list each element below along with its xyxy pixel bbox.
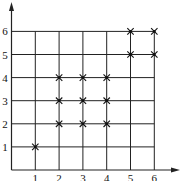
marker-center — [58, 76, 61, 79]
marker-center — [58, 122, 61, 125]
x-tick-label: 4 — [104, 172, 110, 181]
marker-center — [105, 76, 108, 79]
x-tick-label: 5 — [128, 172, 134, 181]
x-tick-label: 6 — [152, 172, 158, 181]
y-tick-label: 1 — [2, 141, 8, 153]
marker-center — [129, 30, 132, 33]
marker-center — [153, 53, 156, 56]
x-tick-labels: 123456 — [33, 172, 158, 181]
y-tick-label: 6 — [2, 25, 8, 37]
x-axis-arrow-icon — [171, 168, 180, 173]
x-tick-label: 3 — [80, 172, 86, 181]
marker-center — [82, 76, 85, 79]
x-tick-label: 2 — [56, 172, 62, 181]
y-tick-labels: 123456 — [2, 25, 8, 152]
x-tick-label: 1 — [33, 172, 39, 181]
y-axis-arrow-icon — [9, 2, 14, 11]
marker-center — [34, 146, 37, 149]
marker-center — [82, 99, 85, 102]
y-tick-label: 5 — [2, 49, 8, 61]
marker-center — [105, 99, 108, 102]
marker-center — [129, 53, 132, 56]
y-tick-label: 4 — [2, 72, 8, 84]
plot-area: 123456 123456 — [0, 0, 182, 181]
scatter-chart: 123456 123456 — [0, 0, 182, 181]
y-tick-label: 3 — [2, 95, 8, 107]
data-points — [32, 28, 157, 150]
marker-center — [105, 122, 108, 125]
y-tick-label: 2 — [2, 118, 8, 130]
marker-center — [82, 122, 85, 125]
marker-center — [58, 99, 61, 102]
marker-center — [153, 30, 156, 33]
